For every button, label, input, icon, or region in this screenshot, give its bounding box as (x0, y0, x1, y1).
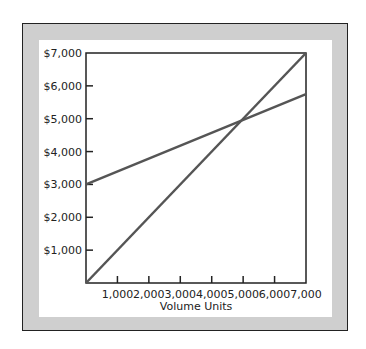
x-tick-label: 7,000 (290, 288, 322, 301)
y-tick-label: $1,000 (44, 244, 83, 257)
y-tick-label: $2,000 (44, 211, 83, 224)
series-lines (86, 53, 306, 283)
y-tick-label: $6,000 (44, 80, 83, 93)
x-tick-label: 1,000 (102, 288, 134, 301)
x-axis: 1,0002,0003,0004,0005,0006,0007,000 (102, 276, 322, 301)
series-line (86, 53, 306, 283)
series-line (86, 94, 306, 184)
y-tick-label: $3,000 (44, 178, 83, 191)
y-tick-label: $5,000 (44, 113, 83, 126)
x-tick-label: 6,000 (259, 288, 291, 301)
y-tick-label: $7,000 (44, 47, 83, 60)
break-even-chart: $1,000$2,000$3,000$4,000$5,000$6,000$7,0… (0, 0, 366, 349)
y-tick-label: $4,000 (44, 146, 83, 159)
x-axis-label: Volume Units (160, 300, 233, 313)
